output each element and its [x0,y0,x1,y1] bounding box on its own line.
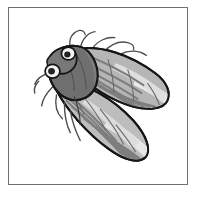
figure-frame: Cicada specimen illustration [8,7,188,185]
compound-eye-lower [45,64,60,78]
compound-eye-upper [61,47,75,60]
cicada-illustration [9,8,187,184]
illustration-root: Cicada specimen illustration [0,0,202,198]
